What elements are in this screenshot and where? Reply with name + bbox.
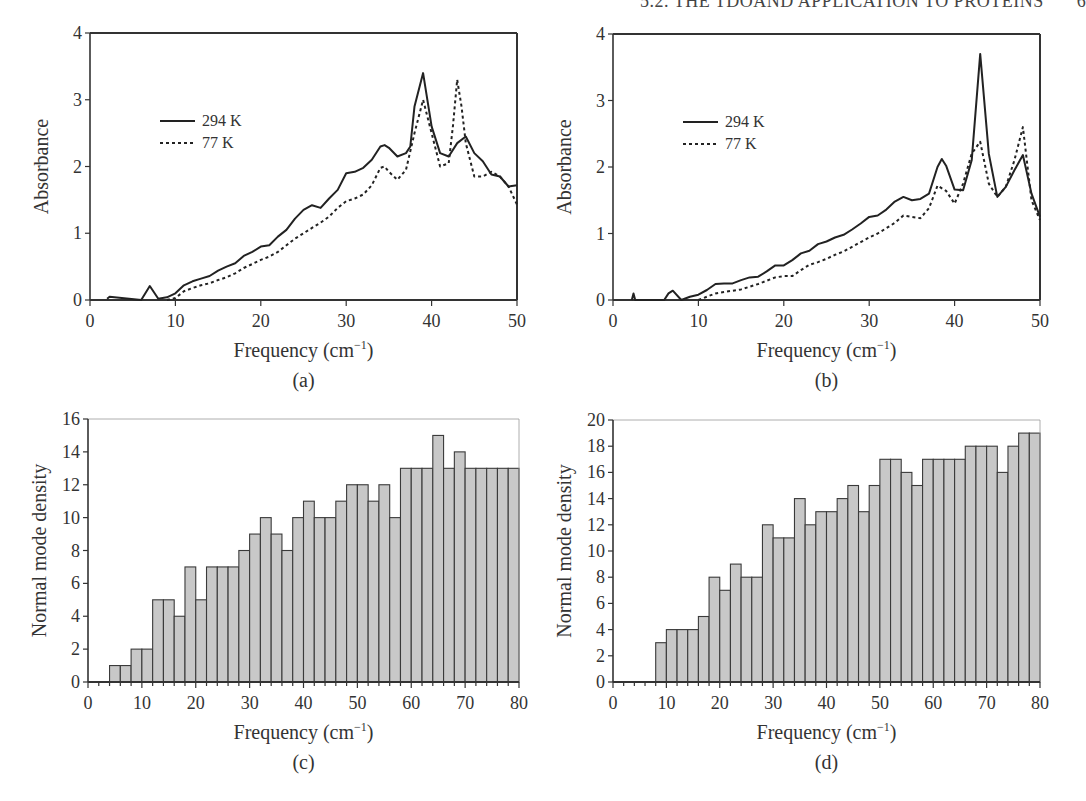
histogram-bar	[271, 534, 282, 682]
x-tick-label: 40	[423, 311, 441, 331]
x-tick-label: 0	[84, 693, 93, 713]
x-tick-label: 10	[657, 693, 675, 713]
chart-d-svg: 0246810121416182001020304050607080Freque…	[540, 400, 1079, 801]
histogram-bar	[923, 459, 934, 682]
histogram-bar	[688, 630, 699, 682]
x-tick-label: 60	[402, 693, 420, 713]
histogram-bar	[912, 486, 923, 683]
histogram-bar	[454, 452, 465, 682]
histogram-bar	[239, 551, 250, 683]
histogram-bar	[816, 512, 827, 682]
bar-series	[656, 433, 1040, 682]
x-axis-label: Frequency (cm−1)	[757, 338, 897, 362]
histogram-bar	[163, 600, 174, 682]
histogram-bar	[997, 472, 1008, 682]
legend-label: 294 K	[202, 112, 242, 129]
histogram-bar	[869, 486, 880, 683]
x-tick-label: 10	[689, 311, 707, 331]
x-tick-label: 30	[337, 311, 355, 331]
x-tick-label: 40	[295, 693, 313, 713]
histogram-bar	[1029, 433, 1040, 682]
x-tick-label: 10	[166, 311, 184, 331]
histogram-bar	[944, 459, 955, 682]
histogram-bar	[433, 435, 444, 682]
histogram-bar	[848, 486, 859, 683]
x-tick-label: 60	[924, 693, 942, 713]
y-tick-label: 4	[596, 24, 605, 44]
histogram-bar	[174, 616, 185, 682]
bar-series	[110, 435, 519, 682]
x-tick-label: 20	[252, 311, 270, 331]
y-tick-label: 0	[73, 290, 82, 310]
x-tick-label: 30	[241, 693, 259, 713]
histogram-bar	[411, 468, 422, 682]
histogram-bar	[153, 600, 164, 682]
histogram-bar	[325, 518, 336, 682]
histogram-bar	[762, 525, 773, 682]
y-tick-label: 12	[587, 515, 605, 535]
y-axis-label: Absorbance	[30, 119, 52, 215]
y-tick-label: 1	[596, 224, 605, 244]
histogram-bar	[487, 468, 498, 682]
histogram-bar	[709, 577, 720, 682]
histogram-bar	[314, 518, 325, 682]
y-axis-label: Normal mode density	[553, 464, 576, 637]
x-tick-label: 20	[187, 693, 205, 713]
histogram-bar	[859, 512, 870, 682]
histogram-bar	[1019, 433, 1030, 682]
histogram-bar	[752, 577, 763, 682]
x-tick-label: 0	[609, 311, 618, 331]
y-tick-label: 2	[596, 157, 605, 177]
y-tick-label: 0	[596, 290, 605, 310]
y-tick-label: 10	[62, 508, 80, 528]
panel-caption: (d)	[815, 751, 838, 774]
y-tick-label: 6	[596, 593, 605, 613]
histogram-bar	[131, 649, 142, 682]
y-tick-label: 8	[596, 567, 605, 587]
histogram-bar	[773, 538, 784, 682]
y-tick-label: 8	[71, 541, 80, 561]
x-tick-label: 40	[946, 311, 964, 331]
y-tick-label: 3	[596, 91, 605, 111]
chart-c-svg: 024681012141601020304050607080Frequency …	[0, 400, 540, 801]
histogram-bar	[304, 501, 315, 682]
x-tick-label: 0	[609, 693, 618, 713]
histogram-bar	[120, 666, 131, 682]
y-tick-label: 2	[71, 639, 80, 659]
histogram-bar	[1008, 446, 1019, 682]
histogram-bar	[282, 551, 293, 683]
histogram-bar	[698, 617, 709, 683]
y-tick-label: 12	[62, 475, 80, 495]
histogram-bar	[217, 567, 228, 682]
histogram-bar	[508, 468, 519, 682]
x-tick-label: 50	[871, 693, 889, 713]
histogram-bar	[827, 512, 838, 682]
y-tick-label: 6	[71, 573, 80, 593]
histogram-bar	[444, 468, 455, 682]
y-tick-label: 0	[71, 672, 80, 692]
histogram-bar	[196, 600, 207, 682]
histogram-bar	[901, 472, 912, 682]
chart-panel-b: 0123401020304050294 K77 KFrequency (cm−1…	[540, 0, 1079, 400]
y-tick-label: 16	[62, 409, 80, 429]
panel-caption: (c)	[292, 751, 314, 774]
y-tick-label: 14	[587, 489, 605, 509]
histogram-bar	[336, 501, 347, 682]
histogram-bar	[110, 666, 121, 682]
chart-panel-d: 0246810121416182001020304050607080Freque…	[540, 400, 1079, 801]
histogram-bar	[656, 643, 667, 682]
x-tick-label: 20	[711, 693, 729, 713]
y-tick-label: 10	[587, 541, 605, 561]
histogram-bar	[794, 499, 805, 682]
chart-panel-a: 0123401020304050294 K77 KFrequency (cm−1…	[0, 0, 540, 400]
x-tick-label: 0	[86, 311, 95, 331]
y-tick-label: 1	[73, 223, 82, 243]
panel-caption: (b)	[815, 369, 838, 392]
histogram-bar	[891, 459, 902, 682]
y-tick-label: 4	[73, 23, 82, 43]
x-tick-label: 50	[508, 311, 526, 331]
y-axis-label: Absorbance	[553, 119, 575, 215]
histogram-bar	[666, 630, 677, 682]
series-line-294-K	[632, 54, 1040, 300]
histogram-bar	[784, 538, 795, 682]
